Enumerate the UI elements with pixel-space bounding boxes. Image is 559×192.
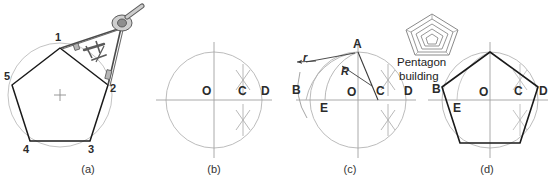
panel-c-point-C: C xyxy=(376,85,385,97)
panel-a-vertex-3: 3 xyxy=(88,144,94,155)
panel-d-caption: (d) xyxy=(480,163,493,175)
panel-b-caption: (b) xyxy=(207,163,220,175)
panel-a-center-mark xyxy=(54,89,66,101)
panel-d-point-D: D xyxy=(539,85,548,97)
panel-a-vertex-2: 2 xyxy=(110,83,116,94)
callout-line-1: Pentagon xyxy=(397,57,446,69)
panel-c-caption: (c) xyxy=(344,163,357,175)
panel-d-point-E: E xyxy=(453,102,461,114)
panel-b: (b) xyxy=(156,42,272,175)
panel-a-vertex-4: 4 xyxy=(23,144,29,155)
panel-c-point-E: E xyxy=(320,102,328,114)
panel-d-point-C: C xyxy=(514,85,523,97)
panel-a-vertex-1: 1 xyxy=(55,32,61,43)
panel-c-dimension-R: R xyxy=(341,66,349,77)
panel-c-dimension-r: r xyxy=(303,52,307,63)
callout-line-2: building xyxy=(399,71,439,83)
compass-icon xyxy=(61,6,142,86)
panel-c-point-O: O xyxy=(347,86,356,98)
panel-d-point-B: B xyxy=(432,83,441,95)
panel-d-point-O: O xyxy=(479,86,488,98)
panel-c-line-CA xyxy=(358,52,378,100)
pentagon-building-icon xyxy=(406,14,458,55)
pentagon-construction-figure: (a) (b) xyxy=(0,0,559,192)
panel-b-point-D: D xyxy=(261,85,270,97)
panel-b-point-C: C xyxy=(238,85,247,97)
panel-b-point-O: O xyxy=(202,85,211,97)
panel-a-vertex-5: 5 xyxy=(4,71,10,82)
panel-c-point-B: B xyxy=(292,84,301,96)
panel-c-point-D: D xyxy=(404,85,413,97)
panel-a-caption: (a) xyxy=(81,163,94,175)
panel-c-point-A: A xyxy=(353,38,362,50)
